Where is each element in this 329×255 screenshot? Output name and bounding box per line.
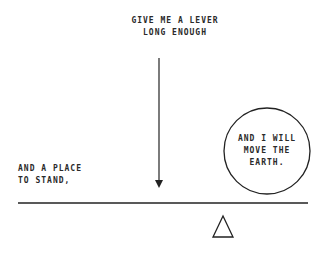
fulcrum-triangle-icon [213,216,233,237]
earth-caption-line2: MOVE THE [224,145,310,157]
earth-caption-line1: AND I WILL [224,133,310,145]
place-caption-line1: AND A PLACE [18,163,118,175]
lever-caption-line1: GIVE ME A LEVER [110,15,240,27]
lever-caption: GIVE ME A LEVER LONG ENOUGH [110,15,240,39]
force-arrow-head-icon [155,180,163,188]
place-caption: AND A PLACE TO STAND, [18,163,118,187]
earth-caption-line3: EARTH. [224,157,310,169]
place-caption-line2: TO STAND, [18,175,118,187]
lever-caption-line2: LONG ENOUGH [110,27,240,39]
earth-caption: AND I WILL MOVE THE EARTH. [224,133,310,169]
